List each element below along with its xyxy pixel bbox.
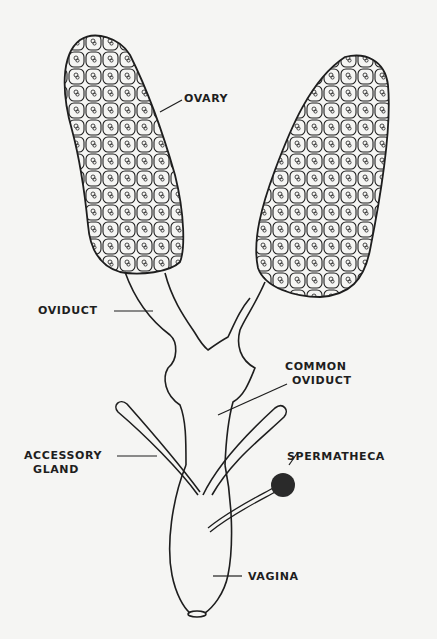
label-accessory-gland-line1: ACCESSORY: [24, 449, 102, 463]
label-oviduct: OVIDUCT: [38, 304, 98, 318]
label-accessory-gland-line2: GLAND: [33, 463, 79, 477]
oviduct-system: [125, 272, 265, 465]
label-common-oviduct-line2: OVIDUCT: [292, 374, 352, 388]
left-ovary: [65, 36, 184, 274]
label-ovary: OVARY: [184, 92, 228, 106]
label-spermatheca: SPERMATHECA: [287, 450, 385, 464]
diagram-canvas: OVARY OVIDUCT COMMON OVIDUCT ACCESSORY G…: [0, 0, 437, 639]
accessory-glands: [116, 402, 286, 495]
label-vagina: VAGINA: [248, 570, 299, 584]
vagina: [170, 465, 232, 617]
label-common-oviduct-line1: COMMON: [285, 360, 346, 374]
right-ovary: [256, 56, 389, 297]
